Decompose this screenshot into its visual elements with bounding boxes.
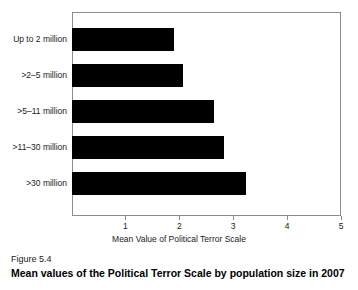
y-axis-label: >30 million xyxy=(0,172,67,195)
figure-chart: Up to 2 million>2–5 million>5–11 million… xyxy=(0,0,358,250)
x-axis-tick-label: 5 xyxy=(331,221,351,231)
y-axis-label: Up to 2 million xyxy=(0,28,67,51)
y-axis-label: >2–5 million xyxy=(0,64,67,87)
figure-number: Figure 5.4 xyxy=(11,253,351,265)
x-axis-title: Mean Value of Political Terror Scale xyxy=(0,234,358,244)
y-axis-label: >5–11 million xyxy=(0,100,67,123)
x-axis-tick-label: 1 xyxy=(115,221,135,231)
bar xyxy=(72,172,247,195)
x-axis-tick-label: 4 xyxy=(277,221,297,231)
x-axis-tick-label: 2 xyxy=(169,221,189,231)
bar-series xyxy=(72,12,342,216)
y-axis-category-labels: Up to 2 million>2–5 million>5–11 million… xyxy=(0,12,67,216)
bar xyxy=(72,64,183,87)
bar xyxy=(72,28,175,51)
x-axis-tick-mark xyxy=(233,216,234,220)
bar xyxy=(72,100,214,123)
x-axis-tick-mark xyxy=(179,216,180,220)
x-axis-tick-label: 3 xyxy=(223,221,243,231)
bar xyxy=(72,136,225,159)
x-axis-tick-mark xyxy=(341,216,342,220)
x-axis-tick-mark xyxy=(125,216,126,220)
caption: Figure 5.4 Mean values of the Political … xyxy=(11,253,351,280)
figure-caption-title: Mean values of the Political Terror Scal… xyxy=(11,266,351,280)
y-axis-label: >11–30 million xyxy=(0,136,67,159)
x-axis-tick-mark xyxy=(287,216,288,220)
